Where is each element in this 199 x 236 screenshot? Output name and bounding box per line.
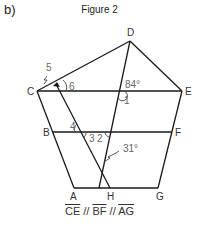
point-C-label: C <box>27 86 34 97</box>
angle-4-label: 4 <box>70 121 76 132</box>
segment-EG <box>158 91 182 188</box>
point-G-label: G <box>156 191 164 202</box>
segment-BF-label: BF <box>92 205 106 217</box>
point-D-label: D <box>127 27 134 38</box>
point-A-label: A <box>70 191 77 202</box>
point-E-label: E <box>185 86 192 97</box>
angle-84-label: 84° <box>125 79 140 90</box>
angle-5-leader <box>44 76 47 84</box>
segment-CA <box>37 91 74 188</box>
angle-5-marker <box>53 82 60 87</box>
angle-31-label: 31° <box>123 143 138 154</box>
parallel-symbol: // <box>80 205 92 217</box>
geometry-figure: D C E B F A H G 84° 1 6 5 4 3 2 31° <box>0 0 199 236</box>
angle-1-label: 1 <box>124 95 130 106</box>
parallel-symbol: // <box>107 205 119 217</box>
parallel-caption: CE // BF // AG <box>0 205 199 217</box>
angle-2-label: 2 <box>97 133 103 144</box>
angle-6-label: 6 <box>69 81 75 92</box>
transversal-from-D <box>99 41 130 188</box>
point-B-label: B <box>43 127 50 138</box>
angle-6-arc <box>63 80 67 91</box>
segment-AG-label: AG <box>118 205 134 217</box>
angle-5-label: 5 <box>46 62 52 73</box>
angle-3-label: 3 <box>89 133 95 144</box>
point-F-label: F <box>175 127 181 138</box>
point-H-label: H <box>107 191 114 202</box>
angle-3-arc <box>84 132 86 137</box>
segment-CE-label: CE <box>65 205 80 217</box>
